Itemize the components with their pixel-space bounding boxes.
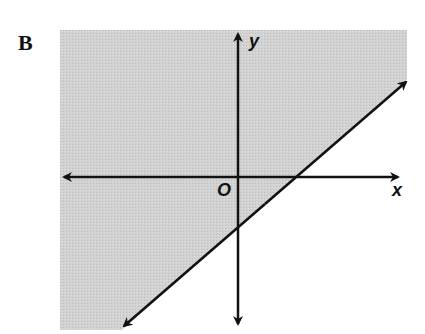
origin-label: O [217, 180, 231, 200]
coordinate-graph: y x O [0, 0, 425, 334]
y-axis-label: y [248, 31, 260, 51]
shaded-region [60, 30, 407, 330]
x-axis-label: x [391, 180, 403, 200]
